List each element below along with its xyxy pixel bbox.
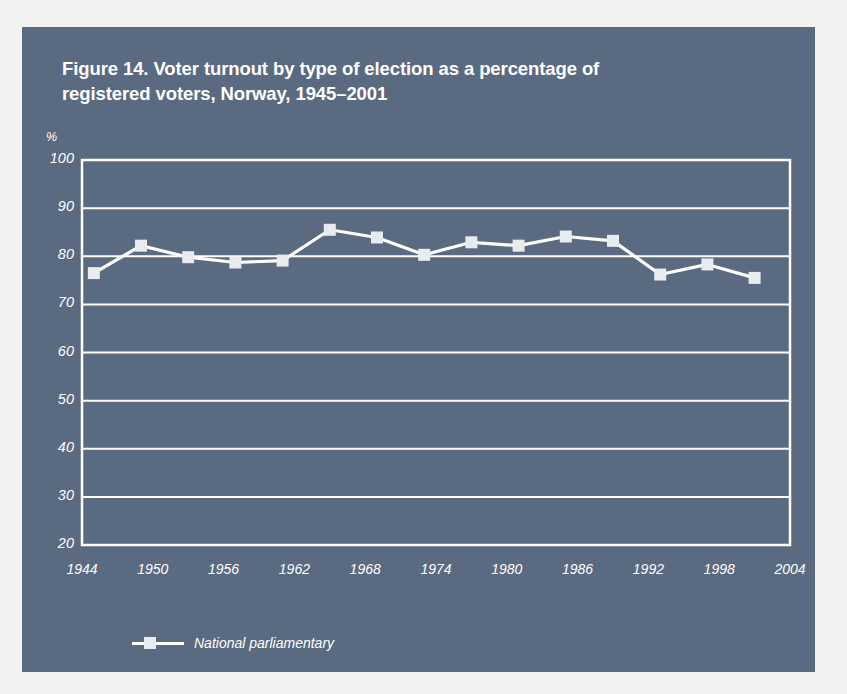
data-point-marker [418, 249, 430, 261]
data-point-marker [182, 251, 194, 263]
data-point-marker [607, 235, 619, 247]
y-axis-tick-label: 60 [28, 343, 74, 359]
data-point-marker [229, 257, 241, 269]
x-axis-tick-label: 1986 [543, 561, 613, 577]
x-axis-tick-label: 1980 [472, 561, 542, 577]
x-axis-tick-label: 1974 [401, 561, 471, 577]
data-point-marker [465, 236, 477, 248]
x-axis-tick-label: 1962 [259, 561, 329, 577]
y-axis-tick-label: 40 [28, 439, 74, 455]
y-axis-tick-label: 30 [28, 487, 74, 503]
x-axis-tick-label: 1998 [684, 561, 754, 577]
x-axis-tick-label: 1968 [330, 561, 400, 577]
data-point-marker [749, 272, 761, 284]
figure-panel: Figure 14. Voter turnout by type of elec… [22, 27, 815, 672]
chart-legend: National parliamentary [132, 635, 334, 651]
y-axis-tick-label: 70 [28, 294, 74, 310]
legend-item-label: National parliamentary [194, 635, 334, 651]
series-markers [88, 224, 761, 284]
x-axis-tick-label: 1956 [189, 561, 259, 577]
legend-swatch [132, 635, 184, 651]
y-axis-unit-label: % [46, 130, 57, 144]
x-axis-tick-label: 1950 [118, 561, 188, 577]
plot-area: 2030405060708090100 19441950195619621968… [22, 27, 815, 672]
figure-root: Figure 14. Voter turnout by type of elec… [0, 0, 847, 694]
x-axis-tick-label: 1992 [613, 561, 683, 577]
x-axis-tick-label: 2004 [755, 561, 825, 577]
data-point-marker [654, 269, 666, 281]
data-point-marker [324, 224, 336, 236]
data-point-marker [135, 240, 147, 252]
data-point-marker [701, 258, 713, 270]
data-point-marker [560, 231, 572, 243]
y-axis-tick-label: 50 [28, 391, 74, 407]
y-axis-tick-label: 90 [28, 198, 74, 214]
y-axis-tick-label: 20 [28, 535, 74, 551]
legend-line-icon [132, 642, 184, 645]
data-point-marker [513, 240, 525, 252]
data-point-marker [371, 231, 383, 243]
y-axis-tick-label: 80 [28, 246, 74, 262]
x-axis-tick-label: 1944 [47, 561, 117, 577]
legend-square-marker-icon [144, 637, 156, 649]
y-axis-tick-label: 100 [28, 150, 74, 166]
data-point-marker [88, 267, 100, 279]
data-point-marker [277, 255, 289, 267]
